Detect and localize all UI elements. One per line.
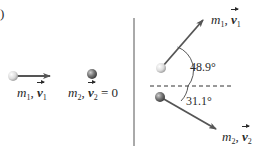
velocity-subscript: 2 (248, 137, 252, 146)
label-before-m2-v2: m2, v2 = 0 (68, 86, 118, 102)
mass-symbol: m (211, 12, 220, 27)
velocity-vector: v (231, 13, 237, 26)
velocity-vector: v (88, 86, 94, 99)
mass-symbol: m (222, 129, 231, 144)
mass-symbol: m (17, 85, 26, 100)
separator: , (30, 85, 33, 100)
angle-label-m2: 31.1° (186, 94, 212, 109)
label-after-m2-v2: m2, v2 (222, 130, 252, 146)
ball-m1 (8, 71, 18, 81)
separator: , (224, 12, 227, 27)
label-after-m1-v1: m1, v1 (211, 13, 241, 29)
ball-m2 (87, 69, 97, 79)
label-before-m1-v1: m1, v1 (17, 86, 47, 102)
velocity-vector: v (37, 86, 43, 99)
separator: , (235, 129, 238, 144)
ball-m1-after (156, 63, 166, 73)
velocity-vector: v (242, 130, 248, 143)
velocity-subscript: 1 (237, 20, 241, 29)
separator: , (81, 85, 84, 100)
angle-label-m1: 48.9° (190, 60, 216, 75)
velocity-subscript: 1 (43, 93, 47, 102)
ball-m2-after (155, 92, 165, 102)
mass-symbol: m (68, 85, 77, 100)
zero-velocity-suffix: = 0 (101, 85, 118, 100)
velocity-subscript: 2 (94, 93, 98, 102)
